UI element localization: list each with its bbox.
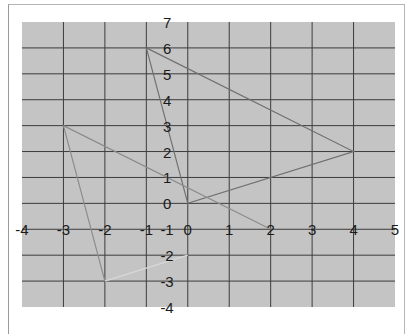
x-tick-label: 2 <box>266 221 274 238</box>
x-tick-label: 5 <box>391 221 399 238</box>
x-tick-label: 0 <box>184 221 192 238</box>
y-tick-label: 0 <box>163 195 171 212</box>
y-tick-label: -3 <box>160 273 173 290</box>
x-tick-label: -2 <box>98 221 111 238</box>
y-tick-label: 6 <box>163 40 171 57</box>
y-tick-label: 1 <box>163 169 171 186</box>
y-tick-label: 5 <box>163 66 171 83</box>
x-tick-label: 4 <box>349 221 357 238</box>
x-tick-label: 1 <box>225 221 233 238</box>
plot-area <box>22 22 395 307</box>
x-tick-label: -4 <box>15 221 28 238</box>
x-tick-label: -3 <box>57 221 70 238</box>
y-tick-label: -4 <box>160 299 173 316</box>
x-tick-label: -1 <box>140 221 153 238</box>
y-tick-label: -2 <box>160 247 173 264</box>
y-tick-label: 2 <box>163 144 171 161</box>
y-tick-label: 7 <box>163 14 171 31</box>
y-tick-label: 4 <box>163 92 171 109</box>
x-tick-label: 3 <box>308 221 316 238</box>
y-tick-label: -1 <box>160 221 173 238</box>
y-tick-label: 3 <box>163 118 171 135</box>
